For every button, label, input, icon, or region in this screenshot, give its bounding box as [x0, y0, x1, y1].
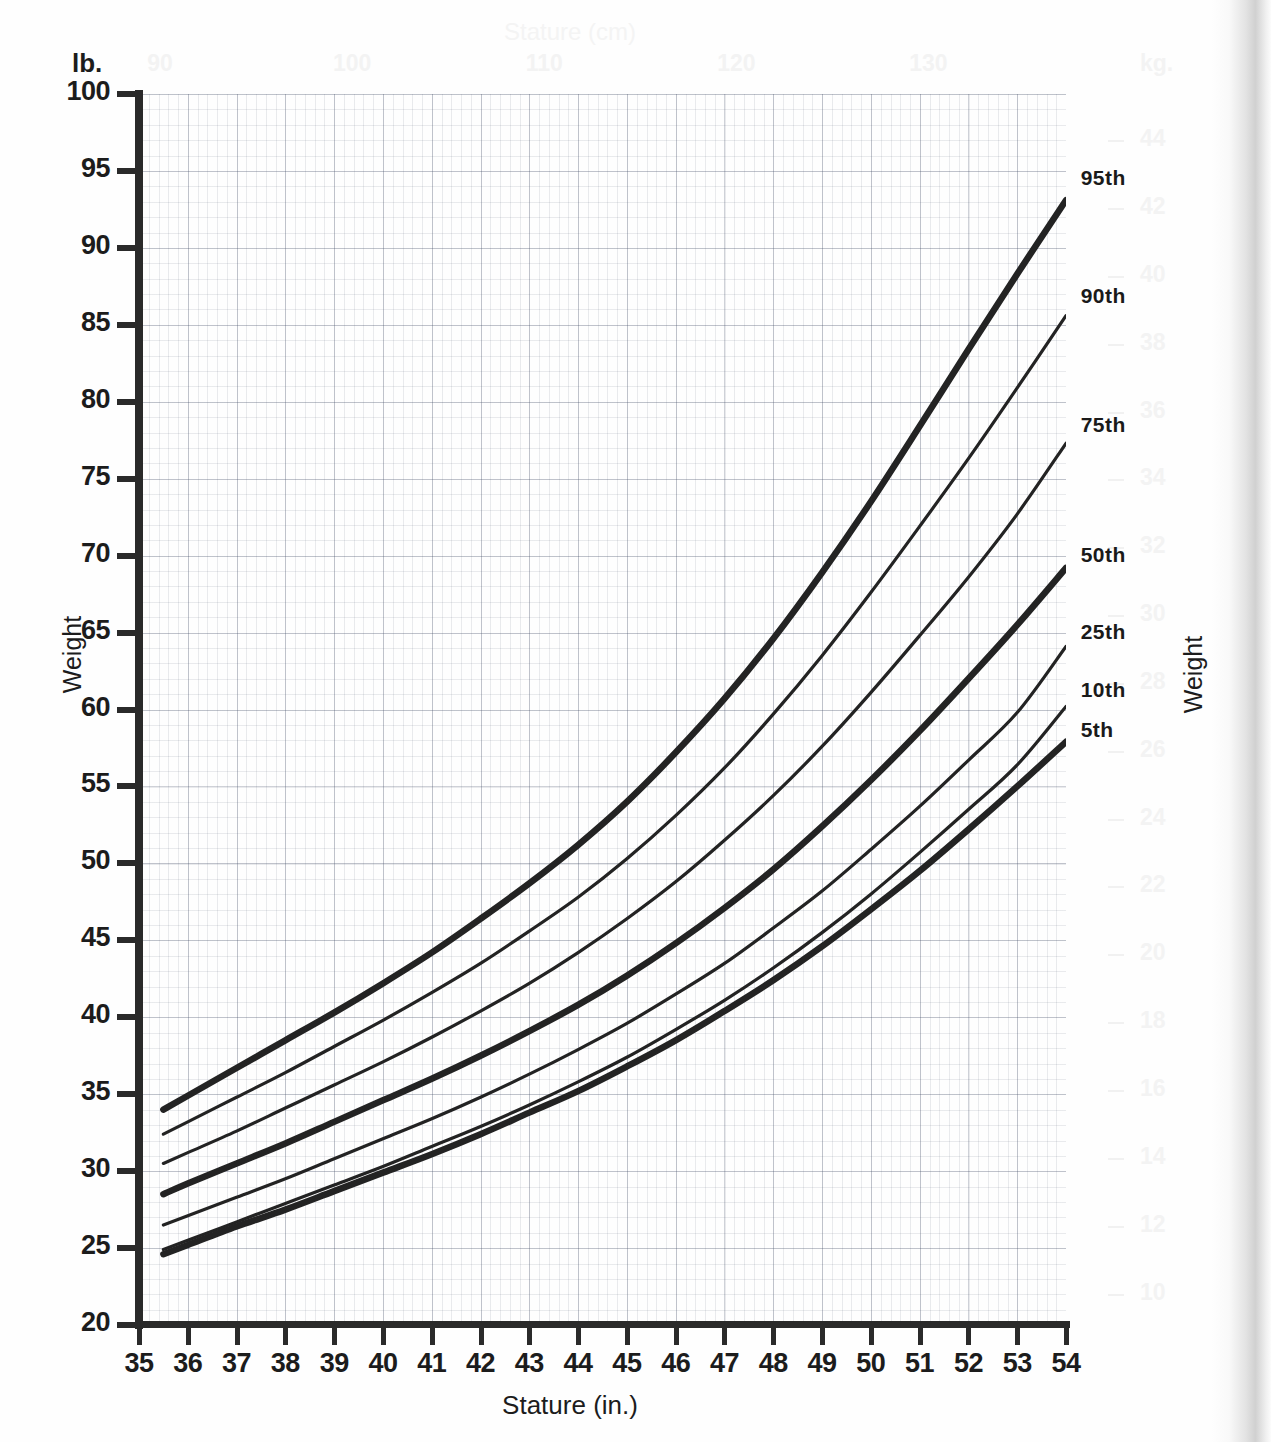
left-unit-label: lb. — [72, 48, 102, 79]
kg-tick-label: 20 — [1140, 939, 1190, 966]
kg-tick-label: 14 — [1140, 1143, 1190, 1170]
y-tick — [117, 707, 137, 713]
percentile-label-5th: 5th — [1081, 718, 1114, 742]
y-tick — [117, 168, 137, 174]
y-tick-label: 65 — [40, 615, 110, 646]
y-tick-label: 90 — [40, 230, 110, 261]
kg-tick-label: 10 — [1140, 1279, 1190, 1306]
percentile-curve-75th — [163, 443, 1066, 1163]
x-tick — [283, 1326, 288, 1345]
cm-tick-label: 130 — [898, 50, 958, 77]
kg-tick-label: 22 — [1140, 871, 1190, 898]
kg-tick — [1108, 819, 1124, 821]
y-tick-label: 55 — [40, 768, 110, 799]
y-tick — [117, 1014, 137, 1020]
percentile-curve-95th — [163, 200, 1066, 1109]
y-tick — [117, 937, 137, 943]
y-tick — [117, 322, 137, 328]
y-tick-label: 85 — [40, 307, 110, 338]
plot-area — [139, 94, 1066, 1325]
y-tick-label: 80 — [40, 384, 110, 415]
x-tick — [625, 1326, 630, 1345]
top-axis-title: Stature (cm) — [0, 18, 1140, 46]
y-tick-label: 50 — [40, 845, 110, 876]
kg-tick — [1108, 140, 1124, 142]
cm-tick-label: 120 — [706, 50, 766, 77]
percentile-label-75th: 75th — [1081, 413, 1126, 437]
kg-tick-label: 18 — [1140, 1007, 1190, 1034]
y-tick — [117, 783, 137, 789]
kg-tick-label: 44 — [1140, 125, 1190, 152]
cm-tick-label: 90 — [130, 50, 190, 77]
kg-tick-label: 42 — [1140, 193, 1190, 220]
y-tick — [117, 399, 137, 405]
y-tick — [117, 553, 137, 559]
kg-tick-label: 36 — [1140, 397, 1190, 424]
y-tick-label: 35 — [40, 1076, 110, 1107]
x-tick — [479, 1326, 484, 1345]
y-tick — [117, 630, 137, 636]
kg-tick — [1108, 751, 1124, 753]
y-tick-label: 100 — [40, 76, 110, 107]
y-tick — [117, 245, 137, 251]
bottom-axis-title: Stature (in.) — [0, 1390, 1140, 1421]
x-tick — [576, 1326, 581, 1345]
right-unit-label: kg. — [1140, 50, 1173, 77]
x-tick — [332, 1326, 337, 1345]
kg-tick-label: 28 — [1140, 668, 1190, 695]
page-edge-shadow — [1211, 0, 1271, 1442]
y-tick-label: 40 — [40, 999, 110, 1030]
x-tick-label: 54 — [1036, 1348, 1096, 1379]
cm-tick-label: 100 — [322, 50, 382, 77]
kg-tick-label: 38 — [1140, 329, 1190, 356]
kg-tick — [1108, 1090, 1124, 1092]
percentile-curve-90th — [163, 316, 1066, 1135]
x-tick — [918, 1326, 923, 1345]
kg-tick-label: 24 — [1140, 804, 1190, 831]
kg-tick-label: 26 — [1140, 736, 1190, 763]
percentile-label-95th: 95th — [1081, 166, 1126, 190]
kg-tick — [1108, 1226, 1124, 1228]
x-tick — [527, 1326, 532, 1345]
y-tick-label: 30 — [40, 1153, 110, 1184]
y-tick-label: 60 — [40, 692, 110, 723]
kg-tick — [1108, 208, 1124, 210]
kg-tick — [1108, 344, 1124, 346]
percentile-curves — [139, 94, 1066, 1325]
x-tick — [137, 1326, 142, 1345]
x-tick — [430, 1326, 435, 1345]
x-tick — [966, 1326, 971, 1345]
y-tick — [117, 1322, 137, 1328]
kg-tick — [1108, 886, 1124, 888]
percentile-curve-10th — [163, 706, 1066, 1249]
kg-tick-label: 16 — [1140, 1075, 1190, 1102]
percentile-label-90th: 90th — [1081, 284, 1126, 308]
y-tick — [117, 476, 137, 482]
x-tick — [381, 1326, 386, 1345]
y-tick-label: 25 — [40, 1230, 110, 1261]
kg-tick — [1108, 1158, 1124, 1160]
percentile-label-25th: 25th — [1081, 620, 1126, 644]
kg-tick-label: 40 — [1140, 261, 1190, 288]
kg-tick — [1108, 954, 1124, 956]
x-tick — [1015, 1326, 1020, 1345]
percentile-curve-5th — [163, 742, 1066, 1254]
y-tick-label: 20 — [40, 1307, 110, 1338]
y-tick — [117, 1091, 137, 1097]
kg-tick-label: 12 — [1140, 1211, 1190, 1238]
y-tick — [117, 1245, 137, 1251]
kg-tick — [1108, 276, 1124, 278]
y-tick-label: 45 — [40, 922, 110, 953]
growth-chart-page: Stature (cm) kg. lb. Weight Weight Statu… — [0, 0, 1271, 1442]
kg-tick — [1108, 479, 1124, 481]
y-tick — [117, 91, 137, 97]
kg-tick-label: 34 — [1140, 464, 1190, 491]
y-tick-label: 75 — [40, 461, 110, 492]
x-tick — [722, 1326, 727, 1345]
percentile-label-10th: 10th — [1081, 678, 1126, 702]
kg-tick — [1108, 1294, 1124, 1296]
x-tick — [1064, 1326, 1069, 1345]
kg-tick-label: 30 — [1140, 600, 1190, 627]
kg-tick-label: 32 — [1140, 532, 1190, 559]
y-tick — [117, 860, 137, 866]
